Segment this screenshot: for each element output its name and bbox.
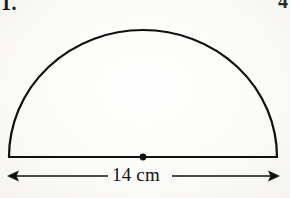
center-point-dot bbox=[140, 154, 147, 161]
dimension-label: 14 cm bbox=[112, 165, 160, 184]
semicircle-arc bbox=[9, 30, 277, 157]
diagram-page: 1. 4 14 cm bbox=[0, 0, 290, 198]
